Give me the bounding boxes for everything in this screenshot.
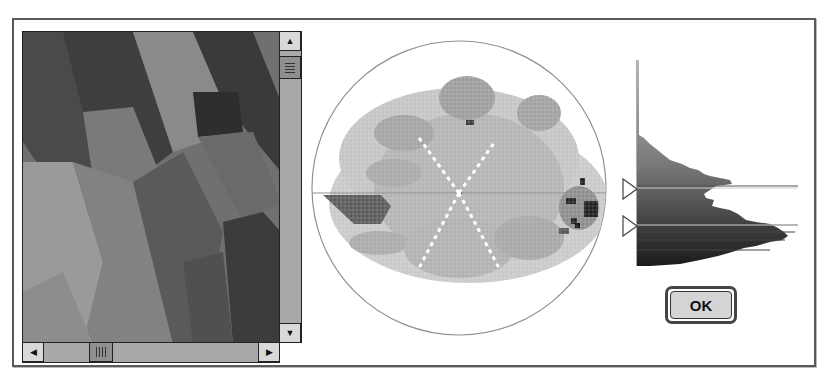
grip-icon xyxy=(96,347,97,357)
grip-line xyxy=(105,347,106,357)
polar-color-plot[interactable] xyxy=(309,38,609,338)
grip-line xyxy=(102,347,103,357)
lower-marker-triangle-icon[interactable] xyxy=(623,216,637,236)
scroll-right-button[interactable]: ▶ xyxy=(258,342,280,362)
left-arrow-icon: ◀ xyxy=(30,347,37,357)
right-arrow-icon: ▶ xyxy=(266,347,273,357)
vertical-scrollbar[interactable]: ▲ ▼ xyxy=(280,31,302,343)
horizontal-scrollbar[interactable]: ◀ ▶ xyxy=(22,343,280,363)
luminance-histogram[interactable] xyxy=(620,60,800,270)
scroll-down-button[interactable]: ▼ xyxy=(279,323,301,343)
density-cloud xyxy=(309,38,609,338)
ok-button-label: OK xyxy=(670,291,732,319)
histogram-bars xyxy=(637,60,788,266)
ok-button[interactable]: OK xyxy=(665,286,737,324)
scroll-left-button[interactable]: ◀ xyxy=(22,342,44,362)
image-preview[interactable] xyxy=(22,31,280,343)
scroll-up-button[interactable]: ▲ xyxy=(279,31,301,51)
grip-line xyxy=(285,69,295,70)
vertical-scroll-thumb[interactable] xyxy=(279,56,301,79)
up-arrow-icon: ▲ xyxy=(286,36,295,46)
grip-line xyxy=(285,72,295,73)
preview-photo xyxy=(23,32,280,343)
grip-line xyxy=(99,347,100,357)
grip-icon xyxy=(285,63,295,64)
down-arrow-icon: ▼ xyxy=(286,328,295,338)
upper-marker-triangle-icon[interactable] xyxy=(623,179,637,199)
horizontal-scroll-thumb[interactable] xyxy=(89,342,113,362)
grip-line xyxy=(285,66,295,67)
